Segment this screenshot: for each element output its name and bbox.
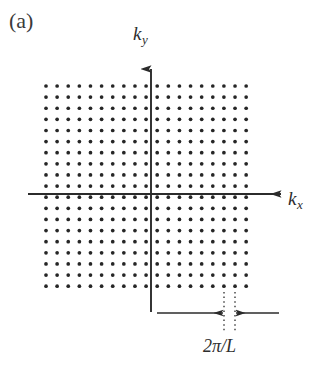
lattice-dot	[89, 262, 93, 266]
lattice-dot	[222, 140, 226, 144]
lattice-dot	[100, 229, 104, 233]
lattice-dot	[222, 106, 226, 110]
lattice-dot	[244, 129, 248, 133]
lattice-dot	[133, 162, 137, 166]
lattice-dot	[166, 251, 170, 255]
lattice-dot	[222, 184, 226, 188]
lattice-dot	[55, 240, 59, 244]
lattice-dot	[200, 162, 204, 166]
lattice-dot	[200, 240, 204, 244]
lattice-dot	[100, 284, 104, 288]
lattice-dot	[55, 262, 59, 266]
lattice-dot	[166, 140, 170, 144]
lattice-dot	[44, 284, 48, 288]
lattice-dot	[200, 229, 204, 233]
lattice-dot	[233, 240, 237, 244]
lattice-dot	[244, 95, 248, 99]
lattice-dot	[178, 129, 182, 133]
lattice-dot	[189, 206, 193, 210]
lattice-dot	[166, 195, 170, 199]
lattice-dot	[211, 273, 215, 277]
lattice-dot	[66, 206, 70, 210]
lattice-dot	[66, 184, 70, 188]
lattice-dot	[211, 151, 215, 155]
lattice-dot	[211, 251, 215, 255]
lattice-dot	[122, 206, 126, 210]
lattice-dot	[144, 129, 148, 133]
lattice-dot	[78, 184, 82, 188]
lattice-dot	[166, 240, 170, 244]
lattice-dot	[44, 106, 48, 110]
lattice-dot	[233, 129, 237, 133]
lattice-dot	[155, 184, 159, 188]
lattice-dot	[111, 240, 115, 244]
lattice-dot	[122, 229, 126, 233]
lattice-dot	[222, 129, 226, 133]
lattice-dot	[144, 218, 148, 222]
lattice-dot	[189, 184, 193, 188]
lattice-dot	[166, 218, 170, 222]
lattice-dot	[55, 284, 59, 288]
lattice-dot	[222, 240, 226, 244]
lattice-dot	[100, 84, 104, 88]
lattice-dot	[133, 140, 137, 144]
lattice-dot	[111, 129, 115, 133]
lattice-dot	[133, 95, 137, 99]
lattice-dot	[122, 218, 126, 222]
lattice-dot	[222, 151, 226, 155]
lattice-dot	[189, 229, 193, 233]
lattice-dot	[211, 95, 215, 99]
lattice-dot	[55, 195, 59, 199]
lattice-dot	[144, 195, 148, 199]
lattice-dot	[89, 140, 93, 144]
lattice-dot	[133, 218, 137, 222]
lattice-dot	[189, 140, 193, 144]
ky-axis-label-symbol: k	[133, 23, 141, 44]
lattice-dot	[133, 151, 137, 155]
lattice-dot	[78, 118, 82, 122]
lattice-dot	[244, 284, 248, 288]
lattice-dot	[122, 95, 126, 99]
lattice-dot	[133, 273, 137, 277]
lattice-dot	[55, 229, 59, 233]
lattice-dot	[133, 240, 137, 244]
lattice-dot	[100, 151, 104, 155]
lattice-dot	[55, 84, 59, 88]
lattice-dot	[89, 118, 93, 122]
lattice-dot	[233, 95, 237, 99]
lattice-dot	[178, 229, 182, 233]
lattice-dot	[144, 240, 148, 244]
lattice-dot	[122, 273, 126, 277]
lattice-dot	[122, 106, 126, 110]
lattice-dot	[189, 95, 193, 99]
lattice-dot	[211, 129, 215, 133]
lattice-dot	[222, 173, 226, 177]
lattice-dot	[233, 229, 237, 233]
kx-axis-label-symbol: k	[288, 188, 296, 209]
lattice-dot	[155, 106, 159, 110]
lattice-dot	[133, 229, 137, 233]
lattice-dot	[155, 218, 159, 222]
lattice-dot	[200, 262, 204, 266]
lattice-dot	[133, 118, 137, 122]
lattice-dot	[144, 118, 148, 122]
lattice-dot	[66, 118, 70, 122]
lattice-dot	[66, 195, 70, 199]
lattice-dot	[144, 229, 148, 233]
lattice-dot	[89, 84, 93, 88]
lattice-dot	[244, 173, 248, 177]
lattice-dot	[122, 262, 126, 266]
lattice-dot	[189, 151, 193, 155]
lattice-dot	[78, 129, 82, 133]
lattice-dot	[244, 84, 248, 88]
lattice-dot	[211, 106, 215, 110]
lattice-dot	[211, 118, 215, 122]
lattice-dot	[244, 118, 248, 122]
lattice-dot	[155, 129, 159, 133]
lattice-dot	[44, 240, 48, 244]
lattice-dot	[122, 162, 126, 166]
lattice-dot	[44, 140, 48, 144]
lattice-dot	[144, 106, 148, 110]
lattice-dot	[144, 173, 148, 177]
lattice-dot	[155, 284, 159, 288]
